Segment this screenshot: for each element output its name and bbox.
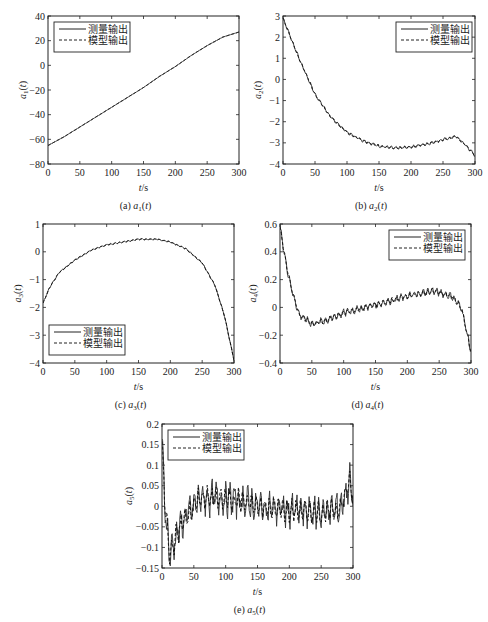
x-tick-label: 250	[195, 366, 210, 377]
y-tick-label: −2	[269, 116, 280, 127]
y-tick-label: 0	[275, 74, 280, 85]
x-tick-label: 0	[41, 366, 46, 377]
legend-label: 模型输出	[88, 34, 128, 46]
x-axis-label: t/s	[253, 586, 263, 597]
plot-area: 050100150200250300−4−3−2−10123t/sa2(t)(b…	[252, 11, 483, 214]
y-tick-label: −2	[29, 302, 40, 313]
plot-area: 050100150200250300−0.4−0.200.20.40.6t/sa…	[247, 219, 479, 413]
chart-panel-c: 050100150200250300−4−3−2−101t/sa3(t)(c) …	[0, 210, 244, 420]
x-tick-label: 150	[368, 366, 383, 377]
legend: 测量输出模型输出	[396, 22, 472, 52]
legend-label: 模型输出	[423, 242, 463, 254]
y-tick-label: −3	[29, 330, 40, 341]
plot-area: 050100150200250300−4−3−2−101t/sa3(t)(c) …	[12, 219, 242, 413]
x-tick-label: 50	[70, 366, 80, 377]
x-tick-label: 50	[310, 167, 320, 178]
x-tick-label: 200	[163, 366, 178, 377]
x-tick-label: 0	[46, 167, 51, 178]
chart-svg-d: 050100150200250300−0.4−0.200.20.40.6t/sa…	[244, 210, 488, 420]
y-tick-label: 0.15	[142, 439, 160, 450]
legend: 测量输出模型输出	[49, 325, 125, 355]
x-tick-label: 250	[314, 571, 329, 582]
y-tick-label: −80	[29, 159, 45, 170]
chart-svg-a: 050100150200250300−80−60−40−2002040t/sa1…	[0, 0, 244, 212]
y-tick-label: −20	[29, 85, 45, 96]
y-axis-label: a2(t)	[252, 81, 265, 99]
y-tick-label: 0.1	[147, 460, 160, 471]
x-axis-label: t/s	[374, 182, 384, 193]
chart-panel-a: 050100150200250300−80−60−40−2002040t/sa1…	[0, 0, 244, 212]
y-tick-label: −1	[269, 95, 280, 106]
legend: 测量输出模型输出	[168, 430, 244, 460]
y-tick-label: 20	[35, 35, 45, 46]
y-tick-label: −40	[29, 109, 45, 120]
legend-label: 模型输出	[83, 337, 123, 349]
chart-svg-e: 050100150200250300−0.15−0.1−0.0500.050.1…	[120, 412, 370, 622]
x-tick-label: 300	[468, 167, 483, 178]
chart-panel-b: 050100150200250300−4−3−2−10123t/sa2(t)(b…	[244, 0, 488, 212]
y-tick-label: −4	[269, 159, 280, 170]
x-tick-label: 50	[75, 167, 85, 178]
y-axis-label: a4(t)	[247, 285, 260, 303]
figure-caption: (c) a3(t)	[115, 399, 147, 412]
y-tick-label: −3	[269, 137, 280, 148]
x-tick-label: 100	[99, 366, 114, 377]
x-tick-label: 200	[404, 167, 419, 178]
y-tick-label: 0.2	[147, 419, 160, 430]
x-tick-label: 250	[432, 366, 447, 377]
x-tick-label: 250	[436, 167, 451, 178]
x-tick-label: 300	[464, 366, 479, 377]
y-tick-label: −1	[29, 274, 40, 285]
y-tick-label: −4	[29, 358, 40, 369]
x-axis-label: t/s	[139, 182, 149, 193]
x-tick-label: 100	[336, 366, 351, 377]
y-tick-label: 1	[35, 219, 40, 230]
y-tick-label: 2	[275, 32, 280, 43]
y-tick-label: 0	[272, 302, 277, 313]
legend-label: 测量输出	[430, 23, 470, 35]
y-tick-label: −0.15	[136, 563, 159, 574]
y-tick-label: −60	[29, 134, 45, 145]
y-axis-label: a3(t)	[12, 285, 25, 303]
x-tick-label: 300	[227, 366, 242, 377]
legend-label: 测量输出	[83, 326, 123, 338]
x-tick-label: 0	[278, 366, 283, 377]
y-tick-label: 0.4	[265, 246, 278, 257]
y-axis-label: a5(t)	[123, 487, 136, 505]
plot-area: 050100150200250300−0.15−0.1−0.0500.050.1…	[123, 419, 361, 618]
x-tick-label: 100	[340, 167, 355, 178]
legend: 测量输出模型输出	[54, 22, 130, 52]
y-tick-label: 0.05	[142, 480, 160, 491]
figure-caption: (e) a5(t)	[234, 604, 266, 617]
x-axis-label: t/s	[371, 381, 381, 392]
y-tick-label: 3	[275, 11, 280, 22]
x-tick-label: 100	[104, 167, 119, 178]
legend-label: 模型输出	[430, 34, 470, 46]
y-tick-label: −0.1	[141, 542, 159, 553]
x-tick-label: 150	[136, 167, 151, 178]
figure-caption: (d) a4(t)	[351, 399, 383, 412]
legend-label: 测量输出	[202, 431, 242, 443]
x-tick-label: 50	[307, 366, 317, 377]
x-tick-label: 150	[250, 571, 265, 582]
x-tick-label: 300	[346, 571, 361, 582]
legend-label: 模型输出	[202, 442, 242, 454]
y-tick-label: 0.6	[265, 219, 278, 230]
x-tick-label: 150	[131, 366, 146, 377]
x-tick-label: 100	[218, 571, 233, 582]
x-tick-label: 0	[281, 167, 286, 178]
y-tick-label: 0	[35, 246, 40, 257]
y-tick-label: −0.2	[259, 330, 277, 341]
chart-panel-d: 050100150200250300−0.4−0.200.20.40.6t/sa…	[244, 210, 488, 420]
y-tick-label: −0.4	[259, 358, 277, 369]
x-tick-label: 0	[160, 571, 165, 582]
y-tick-label: 40	[35, 11, 45, 22]
x-tick-label: 50	[189, 571, 199, 582]
chart-svg-b: 050100150200250300−4−3−2−10123t/sa2(t)(b…	[244, 0, 488, 212]
y-tick-label: 0	[40, 60, 45, 71]
x-tick-label: 250	[200, 167, 215, 178]
legend-label: 测量输出	[423, 231, 463, 243]
x-tick-label: 200	[168, 167, 183, 178]
legend-label: 测量输出	[88, 23, 128, 35]
x-tick-label: 200	[282, 571, 297, 582]
